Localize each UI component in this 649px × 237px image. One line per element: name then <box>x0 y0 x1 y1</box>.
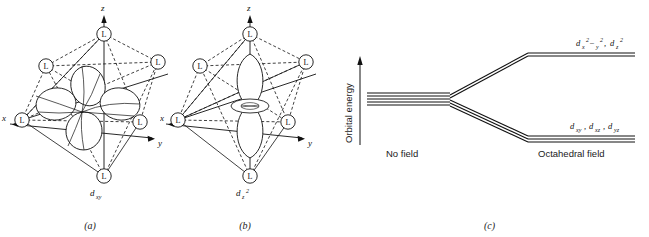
panel-caption-a: (a) <box>0 220 180 231</box>
ligand-x-axis: L <box>15 113 29 127</box>
panel-caption-b: (b) <box>160 220 330 231</box>
orbital-letter: d <box>236 188 241 198</box>
y-axis-label: Orbital energy <box>343 83 354 143</box>
orbital-d3: d <box>608 121 613 131</box>
ligand-letter: L <box>286 118 291 127</box>
panel-a-drawing: L L L L L <box>0 0 180 210</box>
orbital-comma-2: , <box>603 121 605 131</box>
ligand-letter: L <box>176 116 181 125</box>
upper-orbital-set-label: d x 2 − y 2 , d z 2 <box>576 37 623 50</box>
orbital-sup-2b: 2 <box>600 37 603 43</box>
ligand-letter: L <box>198 62 203 71</box>
orbital-sup-2c: 2 <box>620 37 623 43</box>
orbital-d2: d <box>610 38 615 48</box>
ligand-back-left: L <box>39 59 53 73</box>
orbital-sub-xz: xz <box>594 127 601 133</box>
x-axis-label: x <box>1 113 6 123</box>
y-axis-label: y <box>307 138 312 148</box>
state-label-octahedral-field: Octahedral field <box>538 148 605 159</box>
ligand-x-axis: L <box>171 113 185 127</box>
orbital-energy-axis <box>357 56 362 145</box>
ligand-letter: L <box>102 30 107 39</box>
orbital-comma-1: , <box>584 121 586 131</box>
orbital-d1: d <box>576 38 581 48</box>
ligand-letter: L <box>102 172 107 181</box>
ligand-front-right: L <box>133 115 147 129</box>
orbital-comma: , <box>604 38 606 48</box>
orbital-superscript: 2 <box>246 188 249 194</box>
orbital-letter: d <box>90 188 95 198</box>
orbital-sub-yz: yz <box>613 127 620 133</box>
orbital-sub-z: z <box>615 44 619 50</box>
ligand-letter: L <box>20 116 25 125</box>
energy-levels-eg <box>528 53 635 56</box>
energy-levels-no-field <box>367 93 450 105</box>
orbital-name-dxy: d xy <box>90 188 102 200</box>
lower-orbital-set-label: d xy , d xz , d yz <box>570 121 620 133</box>
orbital-sub-x: x <box>581 44 585 50</box>
orbital-minus: − <box>589 38 595 48</box>
ligand-letter: L <box>248 30 253 39</box>
orbital-sub-y: y <box>595 44 599 50</box>
splitting-diagram-drawing: Orbital energy <box>330 0 649 210</box>
ligand-letter: L <box>44 62 49 71</box>
panel-caption-c: (c) <box>330 220 649 231</box>
z-axis-label: z <box>246 3 251 13</box>
energy-levels-t2g <box>528 136 635 142</box>
panel-b-drawing: L L L L L <box>160 0 330 210</box>
orbital-subscript: xy <box>95 194 102 200</box>
correlation-lines-t2g <box>450 100 528 142</box>
z-axis-label: z <box>100 3 105 13</box>
correlation-lines-eg <box>450 53 528 98</box>
orbital-name-dz2: d z 2 <box>236 188 249 200</box>
crystal-field-figure: L L L L L <box>0 0 649 237</box>
ligand-z-bottom: L <box>243 169 257 183</box>
panel-b-dz2-octahedron: L L L L L <box>160 0 330 237</box>
panel-c-splitting-diagram: Orbital energy <box>330 0 649 237</box>
ligand-z-top: L <box>243 27 257 41</box>
ligand-letter: L <box>304 58 309 67</box>
ligand-z-top: L <box>97 27 111 41</box>
orbital-d2: d <box>589 121 594 131</box>
ligand-back-left: L <box>193 59 207 73</box>
ligand-z-bottom: L <box>97 169 111 183</box>
state-label-no-field: No field <box>386 148 418 159</box>
ligand-back-right: L <box>299 55 313 69</box>
x-axis-label: x <box>160 113 164 123</box>
ligand-front-right: L <box>281 115 295 129</box>
panel-a-dxy-octahedron: L L L L L <box>0 0 180 237</box>
orbital-sub-xy: xy <box>575 127 582 133</box>
orbital-d1: d <box>570 121 575 131</box>
orbital-subscript: z <box>241 194 245 200</box>
ligand-letter: L <box>138 118 143 127</box>
ligand-letter: L <box>248 172 253 181</box>
